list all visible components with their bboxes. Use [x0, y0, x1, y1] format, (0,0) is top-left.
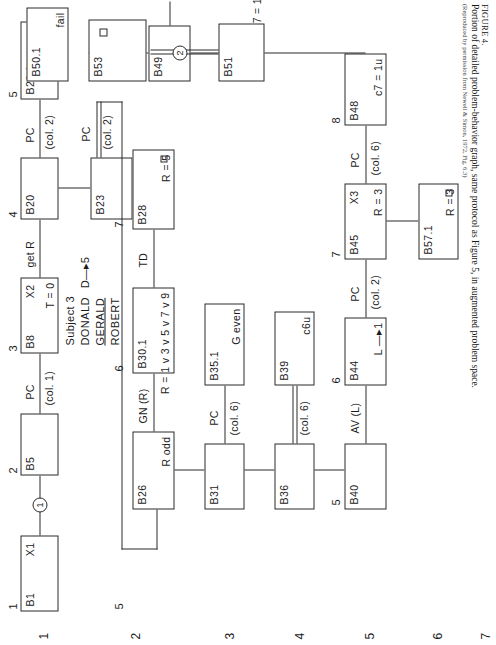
column-number-1-2: 2	[6, 467, 18, 473]
operator-B45-B48-name: PC	[348, 152, 360, 167]
edge-B5-B8	[39, 353, 40, 413]
node-B45[interactable]: B45 X3 R = 3	[344, 183, 386, 259]
node-B45-state: R = 3	[372, 188, 383, 215]
edge-B26-B30	[153, 373, 154, 431]
wrap-turn-down	[96, 101, 122, 102]
operator-B44-B45-col: (col. 2)	[368, 275, 380, 310]
node-B53[interactable]: B53	[88, 19, 146, 81]
subject-gerald: GERALD	[92, 257, 107, 345]
operator-B23-col: (col. 2)	[100, 115, 112, 150]
operator-B45-B48-col: (col. 6)	[368, 141, 380, 176]
subject-donald-assignment: D—▸5	[77, 257, 92, 288]
column-number-1-5: 5	[6, 91, 18, 97]
node-B57-1-label: B57.1	[422, 225, 433, 254]
operator-B40-B44-name: AV (L)	[348, 402, 360, 433]
scanned-figure-page: 1 1 B1 X1 1 2 B5 PC (col. 1) 3 B8 X2 T =…	[0, 0, 496, 645]
node-B28-label: B28	[136, 204, 147, 224]
wrap-turn-up	[121, 548, 157, 549]
node-B40[interactable]: B40	[344, 443, 386, 509]
operator-B36-B39-col: (col. 6)	[297, 401, 309, 436]
operator-B5-B8-name: PC	[23, 384, 35, 399]
node-B28[interactable]: B28 R = 5	[132, 149, 174, 229]
node-B45-aux: X3	[348, 190, 359, 204]
node-B50-1[interactable]: B50.1 fail	[26, 7, 68, 81]
edge-B30-B28	[153, 229, 154, 287]
node-B49-label: B49	[152, 56, 163, 76]
caption-line-1: Portion of detailed problem-behavior gra…	[469, 4, 480, 388]
node-B1[interactable]: B1 X1	[20, 535, 58, 611]
row-label-2: 2	[128, 632, 142, 639]
node-B51[interactable]: B51	[218, 23, 264, 81]
marker-1-icon: 1	[32, 497, 47, 512]
node-B50-1-state: fail	[54, 12, 65, 27]
node-B44-label: B44	[348, 360, 359, 380]
node-B20[interactable]: B20	[20, 157, 58, 219]
node-B57-1-goal-square-icon	[445, 189, 452, 196]
node-B44-state: L —▸1	[372, 322, 383, 355]
edge-B20-B23	[58, 187, 90, 188]
edge-B8-B20	[39, 219, 40, 277]
row-label-5: 5	[362, 632, 376, 639]
node-B48-label: B48	[348, 100, 359, 120]
node-B39-state: c6u	[300, 316, 311, 334]
node-B48-state: c7 = 1u	[372, 58, 383, 96]
node-B5[interactable]: B5	[20, 413, 58, 475]
node-B35-1[interactable]: B35.1 G even	[204, 303, 244, 385]
node-B35-1-label: B35.1	[208, 351, 219, 380]
figure-caption: FIGURE 4. Portion of detailed problem-be…	[461, 4, 490, 388]
node-B28-goal-square-icon	[160, 155, 167, 162]
operator-B44-B45-name: PC	[348, 286, 360, 301]
caption-line-2: (Reproduced by permission from Newell & …	[461, 4, 469, 388]
marker-2-icon-b: 2	[172, 45, 187, 60]
edge-B45-B48	[365, 125, 366, 183]
column-number-1-3: 3	[6, 345, 18, 351]
node-B26[interactable]: B26 R odd	[132, 431, 174, 509]
node-B40-label: B40	[348, 484, 359, 504]
edge-B44-B45	[365, 259, 366, 317]
node-B26-label: B26	[136, 484, 147, 504]
node-B31-label: B31	[208, 484, 219, 504]
edge-B20-B22	[39, 99, 40, 157]
operator-B23-name: PC	[79, 126, 91, 141]
column-number-5-8: 8	[329, 117, 341, 123]
node-B20-label: B20	[24, 194, 35, 214]
edge-B36-B39	[292, 385, 297, 443]
row-label-4: 4	[292, 632, 306, 639]
node-B31[interactable]: B31	[204, 443, 244, 509]
node-B8-aux: X2	[24, 284, 35, 298]
column-number-1-4: 4	[6, 211, 18, 217]
operator-B20-B22-col: (col. 2)	[42, 115, 54, 150]
node-B44[interactable]: B44 L —▸1	[344, 317, 386, 385]
node-B57-1[interactable]: B57.1 R = 3	[418, 183, 458, 259]
node-B36[interactable]: B36	[274, 443, 314, 509]
edge-B31-B35	[224, 385, 225, 443]
edge-B26-B31	[174, 469, 204, 470]
rotated-figure-canvas: 1 1 B1 X1 1 2 B5 PC (col. 1) 3 B8 X2 T =…	[0, 0, 496, 645]
node-B30-1-state: R = 1 v 3 v 5 v 7 v 9	[159, 292, 170, 394]
node-B50-1-label: B50.1	[30, 47, 41, 76]
operator-B31-B35-name: PC	[207, 410, 219, 425]
node-B30-1-label: B30.1	[136, 339, 147, 368]
subject-line-1: Subject 3	[62, 257, 77, 345]
operator-B20-B22-name: PC	[23, 127, 35, 142]
node-B45-label: B45	[348, 234, 359, 254]
node-B1-aux: X1	[24, 542, 35, 556]
column-number-2-6: 6	[112, 365, 124, 371]
node-B35-1-state: G even	[230, 308, 241, 344]
node-B39[interactable]: B39 c6u	[274, 311, 314, 385]
operator-B30-B28-name: TD	[136, 252, 148, 267]
node-B8-label: B8	[24, 334, 35, 348]
node-B1-label: B1	[24, 592, 35, 606]
node-B48[interactable]: B48 c7 = 1u	[344, 53, 386, 125]
node-B30-1[interactable]: B30.1 R = 1 v 3 v 5 v 7 v 9	[132, 287, 174, 373]
node-B8[interactable]: B8 X2 T = 0	[20, 277, 58, 353]
edge-B49-B51	[169, 1, 170, 25]
node-B23[interactable]: B23	[90, 157, 132, 219]
edge-B40-B44	[365, 385, 366, 443]
column-number-5-6: 6	[329, 377, 341, 383]
problem-behavior-graph: 1 1 B1 X1 1 2 B5 PC (col. 1) 3 B8 X2 T =…	[0, 0, 496, 645]
subject-donald: DONALD	[77, 297, 92, 345]
row-label-3: 3	[222, 632, 236, 639]
column-number-2-5: 5	[112, 603, 124, 609]
node-B53-goal-square-icon	[99, 28, 107, 36]
